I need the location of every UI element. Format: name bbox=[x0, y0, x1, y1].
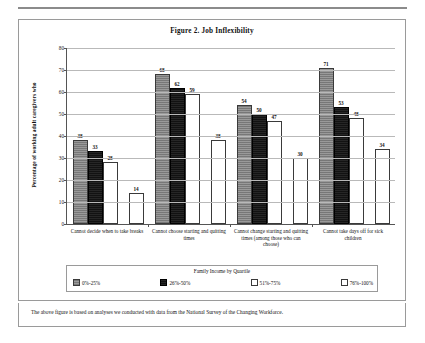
bar[interactable]: 48 bbox=[349, 118, 364, 224]
y-axis-tick-mark bbox=[64, 92, 67, 93]
x-axis-category-labels: Cannot decide when to take breaksCannot … bbox=[66, 228, 394, 248]
y-axis-tick-mark bbox=[64, 224, 67, 225]
legend-swatch-icon bbox=[251, 279, 258, 286]
x-axis-category-label: Cannot choose starting and quitting time… bbox=[148, 228, 230, 248]
x-axis-category-label: Cannot change starting and quitting time… bbox=[230, 228, 312, 248]
y-axis-tick-mark bbox=[64, 202, 67, 203]
y-axis-label: Percentage of working adult caregivers w… bbox=[27, 46, 41, 224]
bar[interactable]: 30 bbox=[293, 158, 308, 224]
legend-item[interactable]: 76%-100% bbox=[341, 279, 373, 286]
x-axis-tick-mark bbox=[230, 224, 231, 227]
footnote-container: The above figure is based on analyses we… bbox=[18, 303, 406, 327]
legend-item-label: 51%-75% bbox=[260, 280, 281, 286]
bar-value-label: 62 bbox=[174, 81, 179, 87]
x-axis-tick-mark bbox=[148, 224, 149, 227]
legend-items: 0%-25%26%-50%51%-75%76%-100% bbox=[73, 279, 373, 286]
plot-region: 38332814686259385450473071534834 0102030… bbox=[66, 48, 395, 225]
bar[interactable]: 28 bbox=[103, 162, 118, 224]
x-axis-category-label: Cannot take days off for sick children bbox=[312, 228, 394, 248]
bar-value-label: 71 bbox=[323, 61, 328, 67]
x-axis-category-label: Cannot decide when to take breaks bbox=[66, 228, 148, 248]
legend: Family Income by Quartile 0%-25%26%-50%5… bbox=[66, 265, 378, 292]
y-axis-tick-mark bbox=[64, 48, 67, 49]
bar-value-label: 30 bbox=[297, 151, 302, 157]
gridline bbox=[67, 114, 395, 115]
bar-value-label: 34 bbox=[379, 142, 384, 148]
legend-swatch-icon bbox=[73, 279, 80, 286]
legend-item[interactable]: 51%-75% bbox=[251, 279, 281, 286]
bar[interactable]: 53 bbox=[334, 107, 349, 224]
bar[interactable]: 14 bbox=[129, 193, 144, 224]
gridline bbox=[67, 48, 395, 49]
chart-area: Percentage of working adult caregivers w… bbox=[29, 46, 397, 268]
figure-title: Figure 2. Job Inflexibility bbox=[19, 27, 405, 35]
bar[interactable]: 50 bbox=[252, 114, 267, 224]
y-axis-tick-mark bbox=[64, 158, 67, 159]
legend-item-label: 0%-25% bbox=[82, 280, 100, 286]
gridline bbox=[67, 202, 395, 203]
y-axis-tick-mark bbox=[64, 114, 67, 115]
y-axis-tick-mark bbox=[64, 180, 67, 181]
figure-page: Figure 2. Job Inflexibility Percentage o… bbox=[0, 0, 425, 343]
figure-footnote: The above figure is based on analyses we… bbox=[31, 309, 283, 315]
legend-title: Family Income by Quartile bbox=[67, 268, 377, 274]
gridline bbox=[67, 180, 395, 181]
gridline bbox=[67, 136, 395, 137]
figure-container: Figure 2. Job Inflexibility Percentage o… bbox=[18, 19, 406, 301]
y-axis-label-text: Percentage of working adult caregivers w… bbox=[31, 82, 37, 187]
gridline bbox=[67, 158, 395, 159]
legend-item[interactable]: 0%-25% bbox=[73, 279, 100, 286]
bar[interactable]: 38 bbox=[73, 140, 88, 224]
top-divider-rule bbox=[18, 7, 407, 9]
x-axis-tick-mark bbox=[312, 224, 313, 227]
bar[interactable]: 62 bbox=[170, 88, 185, 224]
bar[interactable]: 33 bbox=[88, 151, 103, 224]
bar[interactable]: 54 bbox=[237, 105, 252, 224]
gridline bbox=[67, 92, 395, 93]
legend-item-label: 26%-50% bbox=[169, 280, 190, 286]
y-axis-tick-mark bbox=[64, 70, 67, 71]
legend-item[interactable]: 26%-50% bbox=[160, 279, 190, 286]
bar-value-label: 33 bbox=[92, 144, 97, 150]
bar[interactable]: 34 bbox=[375, 149, 390, 224]
bar-value-label: 54 bbox=[241, 98, 246, 104]
bar[interactable]: 38 bbox=[211, 140, 226, 224]
legend-swatch-icon bbox=[160, 279, 167, 286]
gridline bbox=[67, 70, 395, 71]
bar-value-label: 50 bbox=[256, 107, 261, 113]
bar-value-label: 14 bbox=[133, 186, 138, 192]
legend-swatch-icon bbox=[341, 279, 348, 286]
bar-value-label: 53 bbox=[338, 100, 343, 106]
legend-item-label: 76%-100% bbox=[350, 280, 373, 286]
y-axis-tick-mark bbox=[64, 136, 67, 137]
